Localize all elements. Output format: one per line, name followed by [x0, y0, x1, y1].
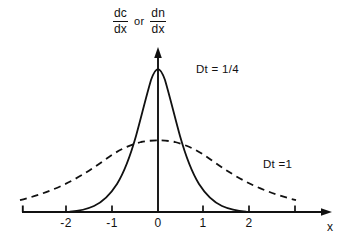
x-tick-label-0: 0 [155, 216, 162, 230]
x-tick-label-1: 1 [200, 216, 207, 230]
x-tick-label--1: -1 [106, 216, 117, 230]
plot-canvas [0, 0, 343, 242]
series-label-dt-quarter: Dt = 1/4 [196, 63, 239, 75]
series-label-dt-one: Dt =1 [263, 158, 292, 170]
diffusion-profile-figure: dc dx or dn dx [0, 0, 343, 242]
x-tick-label-2: 2 [246, 216, 253, 230]
x-tick-label--2: -2 [60, 216, 71, 230]
x-axis [22, 206, 332, 216]
x-axis-label: x [327, 220, 333, 234]
